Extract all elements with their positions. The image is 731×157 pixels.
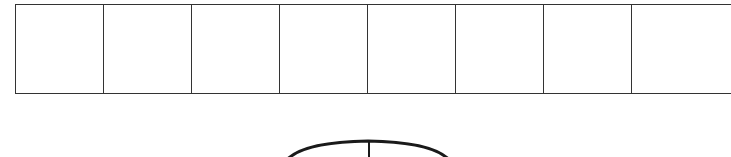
grid-cell bbox=[367, 4, 455, 94]
grid-cell bbox=[103, 4, 191, 94]
cell-strip bbox=[15, 4, 731, 94]
semicircle-arc bbox=[285, 141, 451, 157]
grid-cell bbox=[279, 4, 367, 94]
grid-cell bbox=[455, 4, 543, 94]
grid-cell bbox=[15, 4, 103, 94]
grid-cell-clipped bbox=[631, 4, 731, 94]
grid-cell bbox=[543, 4, 631, 94]
grid-cell bbox=[191, 4, 279, 94]
